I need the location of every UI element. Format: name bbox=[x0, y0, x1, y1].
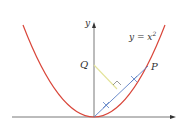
curve-equation-lhs: y = x bbox=[128, 32, 152, 42]
curve-equation-exponent: 2 bbox=[151, 30, 156, 37]
y-axis-label: y bbox=[84, 18, 91, 28]
point-q-label: Q bbox=[80, 59, 88, 70]
curve-equation-label: y = x2 bbox=[128, 30, 156, 42]
segment-q-perpendicular bbox=[94, 65, 117, 89]
diagram-canvas: y Q P y = x2 bbox=[0, 0, 189, 121]
x-axis-arrow-icon bbox=[170, 115, 176, 119]
point-p-label: P bbox=[150, 61, 158, 72]
right-angle-marker bbox=[113, 81, 121, 85]
y-axis-arrow-icon bbox=[92, 22, 96, 28]
